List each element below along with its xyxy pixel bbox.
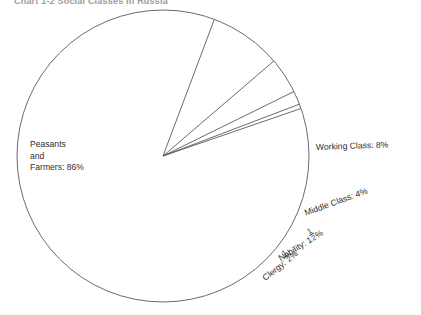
pie-chart-figure: Chart 1-2 Social Classes in Russia Peasa… <box>0 0 421 315</box>
slice-label-peasants-line1: Peasants <box>30 139 84 151</box>
slice-label-peasants: Peasants and Farmers: 86% <box>30 139 84 174</box>
slice-label-peasants-line3: Farmers: 86% <box>30 162 84 174</box>
slice-label-peasants-line2: and <box>30 151 84 163</box>
